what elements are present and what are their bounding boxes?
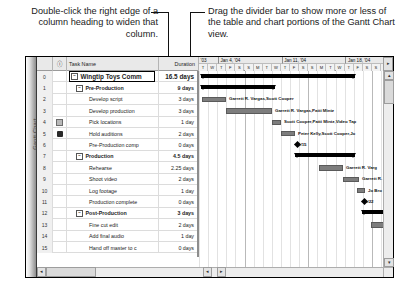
row-id-cell[interactable]: 3: [37, 105, 53, 116]
row-id-cell[interactable]: 6: [37, 139, 53, 150]
gantt-task-bar[interactable]: [272, 120, 281, 125]
timescale-scroll-right-button[interactable]: ▸: [383, 57, 393, 71]
task-name-cell[interactable]: −Post-Production: [67, 208, 159, 219]
duration-cell[interactable]: 4.5 days: [159, 151, 199, 162]
row-id-cell[interactable]: 10: [37, 185, 53, 196]
task-name-cell[interactable]: Hold auditions: [67, 128, 159, 139]
timescale-day-19: S: [372, 64, 381, 71]
gantt-task-bar[interactable]: [371, 222, 383, 227]
gantt-summary-bar[interactable]: [201, 85, 275, 89]
duration-cell[interactable]: 1 day: [159, 231, 199, 242]
horizontal-scroll-thumb[interactable]: [46, 267, 96, 277]
task-name-cell[interactable]: −Wingtip Toys Comm: [67, 71, 159, 82]
duration-cell[interactable]: 3 days: [159, 208, 199, 219]
column-header-task-name[interactable]: Task Name: [67, 57, 159, 71]
outline-collapse-icon[interactable]: −: [71, 73, 78, 80]
chart-gridline: [199, 71, 200, 267]
gantt-summary-bar[interactable]: [362, 210, 383, 214]
duration-cell[interactable]: 3 days: [159, 94, 199, 105]
row-id-cell[interactable]: 8: [37, 162, 53, 173]
task-name-cell[interactable]: Pre-Production comp: [67, 139, 159, 150]
gantt-summary-bar[interactable]: [295, 153, 355, 157]
row-id-cell[interactable]: 9: [37, 174, 53, 185]
hand-icon[interactable]: [53, 128, 67, 139]
gantt-bar-label: Garrett R. Vargas,Scott Cooper: [229, 96, 294, 102]
task-name-cell[interactable]: Develop production: [67, 105, 159, 116]
scroll-down-button[interactable]: ▾: [384, 258, 394, 267]
duration-cell[interactable]: 0 days: [159, 196, 199, 207]
outline-collapse-icon[interactable]: −: [76, 153, 83, 160]
task-name-cell[interactable]: Add final audio: [67, 231, 159, 242]
task-name-cell[interactable]: −Production: [67, 151, 159, 162]
task-name-cell[interactable]: Hand off master to c: [67, 242, 159, 253]
duration-cell[interactable]: 1 day: [159, 185, 199, 196]
gantt-task-bar[interactable]: [281, 131, 295, 136]
duration-cell[interactable]: 1 day: [159, 117, 199, 128]
task-name-cell[interactable]: Develop script: [67, 94, 159, 105]
task-name-label: Rehearse: [89, 165, 112, 171]
chart-scroll-left-button[interactable]: ◂: [203, 267, 212, 277]
row-id-cell[interactable]: 14: [37, 231, 53, 242]
task-name-cell[interactable]: −Pre-Production: [67, 82, 159, 93]
gantt-chart-area[interactable]: Garrett R. Vargas,Scott CooperGarrett R.…: [199, 71, 383, 267]
task-name-label: Fine cut edit: [89, 222, 118, 228]
row-id-cell[interactable]: 0: [37, 71, 53, 82]
indicator-cell: [53, 151, 67, 162]
duration-cell[interactable]: 0 days: [159, 139, 199, 150]
chart-scroll-right-button[interactable]: ▸: [217, 267, 226, 277]
view-bar[interactable]: Gantt Chart: [26, 57, 37, 277]
indicator-cell: [53, 94, 67, 105]
column-header-duration[interactable]: Duration: [159, 57, 199, 71]
row-id-cell[interactable]: 7: [37, 151, 53, 162]
gantt-task-bar[interactable]: [226, 108, 272, 113]
task-name-cell[interactable]: Log footage: [67, 185, 159, 196]
task-name-label: Develop script: [89, 96, 123, 102]
gantt-task-bar[interactable]: [343, 177, 359, 182]
scroll-left-button[interactable]: ◂: [37, 267, 46, 277]
callout-divider-bar: Drag the divider bar to show more or les…: [208, 6, 398, 40]
gantt-task-bar[interactable]: [319, 165, 343, 170]
timescale-day-7: T: [263, 64, 272, 71]
duration-cell[interactable]: 2 days: [159, 174, 199, 185]
duration-cell[interactable]: 2 days: [159, 219, 199, 230]
row-id-cell[interactable]: 11: [37, 196, 53, 207]
vertical-scroll-thumb[interactable]: [384, 80, 394, 104]
outline-collapse-icon[interactable]: −: [76, 85, 83, 92]
task-name-cell[interactable]: Production complete: [67, 196, 159, 207]
gantt-task-bar[interactable]: [357, 188, 365, 193]
timescale-day-12: S: [308, 64, 317, 71]
row-id-cell[interactable]: 2: [37, 94, 53, 105]
task-name-cell[interactable]: Pick locations: [67, 117, 159, 128]
duration-cell[interactable]: 2 days: [159, 128, 199, 139]
gantt-bar-label: Scott Cooper,Patti Mintz,Video Tap: [284, 119, 356, 125]
horizontal-scrollbar[interactable]: ◂ ◂ ▸: [37, 267, 383, 277]
scroll-up-button[interactable]: ▴: [384, 71, 394, 80]
duration-cell[interactable]: 16.5 days: [159, 71, 199, 82]
column-header-id[interactable]: [37, 57, 53, 71]
outline-collapse-icon[interactable]: −: [76, 210, 83, 217]
duration-cell[interactable]: 0 days: [159, 242, 199, 253]
task-name-cell[interactable]: Rehearse: [67, 162, 159, 173]
duration-cell[interactable]: 9 days: [159, 82, 199, 93]
row-id-cell[interactable]: 1: [37, 82, 53, 93]
task-name-label: Production complete: [89, 199, 137, 205]
timescale-day-9: T: [281, 64, 290, 71]
duration-cell[interactable]: 2.25 days: [159, 162, 199, 173]
row-id-cell[interactable]: 12: [37, 208, 53, 219]
row-id-cell[interactable]: 13: [37, 219, 53, 230]
task-name-cell[interactable]: Shoot video: [67, 174, 159, 185]
vertical-scrollbar[interactable]: ▴ ▾: [383, 71, 393, 267]
row-id-cell[interactable]: 5: [37, 128, 53, 139]
timescale-header[interactable]: '03Jan 4, '04Jan 11, '04Jan 18, '04TWTFS…: [199, 57, 383, 71]
task-name-cell[interactable]: Fine cut edit: [67, 219, 159, 230]
divider-bar[interactable]: [197, 71, 199, 257]
gantt-task-bar[interactable]: [202, 97, 226, 102]
duration-cell[interactable]: 3 days: [159, 105, 199, 116]
row-id-cell[interactable]: 4: [37, 117, 53, 128]
row-id-cell[interactable]: 15: [37, 242, 53, 253]
gantt-summary-bar[interactable]: [201, 74, 355, 78]
note-icon[interactable]: [53, 117, 67, 128]
gantt-bar-label: Garrett R.: [362, 176, 382, 182]
indicator-icon[interactable]: ⓘ: [53, 57, 67, 71]
grid-body: 0−Wingtip Toys Comm16.5 days1−Pre-Produc…: [37, 71, 393, 267]
